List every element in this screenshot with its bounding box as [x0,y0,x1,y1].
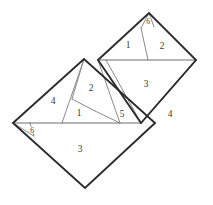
region-label-3-right: 3 [144,79,149,89]
region-label-5-mid: 5 [120,109,125,119]
region-label-3-bottom: 3 [78,144,83,154]
diagram-container: 61234521463 [0,0,213,205]
region-label-4-left: 4 [51,96,56,106]
region-label-4-right: 4 [168,109,173,119]
region-label-2-left: 2 [89,83,94,93]
dissection-diagram: 61234521463 [0,0,213,205]
region-label-6-top: 6 [146,17,150,26]
region-label-6-left: 6 [30,126,34,135]
region-label-1-top: 1 [126,40,131,50]
region-label-1-left: 1 [77,108,82,118]
region-label-2-top: 2 [160,41,165,51]
